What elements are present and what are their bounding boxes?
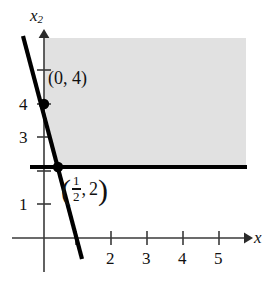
paren-close: ) xyxy=(98,175,108,205)
y-axis-arrowhead xyxy=(39,29,50,38)
fraction-denominator: 2 xyxy=(72,190,81,204)
y-axis-label: x2 xyxy=(30,7,43,25)
y-axis-label-subscript: 2 xyxy=(38,13,44,25)
annotation-y-value: 2 xyxy=(89,180,98,198)
shaded-feasible-region xyxy=(44,38,246,167)
x-tick-label-3: 3 xyxy=(142,250,151,267)
x-tick-label-2: 2 xyxy=(106,250,115,267)
x-tick-label-5: 5 xyxy=(214,250,223,267)
y-tick-label-1: 1 xyxy=(19,196,28,213)
y-tick-label-3: 3 xyxy=(19,129,28,146)
point-marker-half-2 xyxy=(53,162,63,172)
coordinate-plane-svg xyxy=(0,0,267,288)
annotation-comma: , xyxy=(82,180,87,198)
x-axis-label: x xyxy=(254,229,262,246)
paren-open: ( xyxy=(61,175,71,205)
annotation-point-0-4: (0, 4) xyxy=(48,69,87,87)
x-tick-label-4: 4 xyxy=(178,250,187,267)
annotation-point-half-2: ( 1 2 , 2 ) xyxy=(61,174,108,204)
y-axis-label-base: x xyxy=(30,6,38,25)
x-axis-arrowhead xyxy=(244,233,253,244)
fraction-numerator: 1 xyxy=(72,174,81,188)
graph-figure: x2 x 2 3 4 5 1 3 4 (0, 4) ( 1 2 , 2 ) xyxy=(0,0,267,288)
fraction-one-half: 1 2 xyxy=(72,174,81,204)
y-tick-label-4: 4 xyxy=(19,96,28,113)
point-marker-0-4 xyxy=(39,99,49,109)
